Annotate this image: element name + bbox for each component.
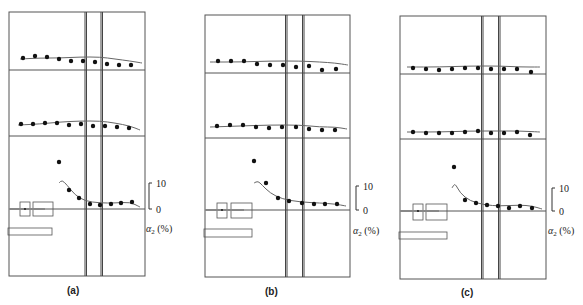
- scale-label-bottom: 0: [363, 205, 368, 216]
- data-point: [254, 125, 258, 129]
- data-point: [81, 59, 85, 63]
- data-point: [485, 203, 489, 207]
- data-point: [119, 201, 123, 205]
- middle-row: [18, 121, 140, 130]
- data-point: [528, 133, 532, 137]
- middle-row: [407, 129, 540, 137]
- data-point: [320, 128, 324, 132]
- data-point: [489, 67, 493, 71]
- scale-bar: 100α2 (%): [548, 183, 574, 238]
- fit-curve: [407, 66, 540, 67]
- data-point: [264, 181, 268, 185]
- data-point: [300, 201, 304, 205]
- data-point: [252, 159, 256, 163]
- data-point: [474, 201, 478, 205]
- data-point: [242, 59, 246, 63]
- data-point: [411, 130, 415, 134]
- data-point: [463, 130, 467, 134]
- data-point: [323, 202, 327, 206]
- data-point: [91, 124, 95, 128]
- data-point: [463, 198, 467, 202]
- data-point: [98, 203, 102, 207]
- data-point: [307, 127, 311, 131]
- panel-c: 100α2 (%)(c): [399, 16, 574, 298]
- panel-label: (a): [67, 285, 79, 296]
- data-point: [57, 57, 61, 61]
- data-point: [93, 60, 97, 64]
- data-point: [530, 206, 534, 210]
- data-point: [476, 129, 480, 133]
- axis-label-alpha2: α2 (%): [353, 225, 379, 238]
- panel-a: 100α2 (%)(a): [8, 12, 172, 296]
- axis-label-alpha2: α2 (%): [146, 223, 172, 236]
- component-center-dot: [24, 208, 26, 210]
- data-point: [450, 67, 454, 71]
- data-point: [276, 196, 280, 200]
- data-point: [103, 124, 107, 128]
- data-point: [411, 66, 415, 70]
- data-point: [43, 121, 47, 125]
- data-point: [31, 122, 35, 126]
- data-point: [268, 63, 272, 67]
- data-point: [335, 202, 339, 206]
- data-point: [502, 67, 506, 71]
- data-point: [496, 204, 500, 208]
- data-point: [463, 66, 467, 70]
- component-bar: [8, 228, 52, 235]
- data-point: [21, 56, 25, 60]
- data-point: [127, 126, 131, 130]
- data-point: [67, 188, 71, 192]
- data-point: [45, 55, 49, 59]
- bottom-row: [252, 159, 346, 206]
- data-point: [424, 131, 428, 135]
- component-bar: [399, 232, 447, 239]
- fit-curve: [18, 121, 140, 130]
- component-center-dot: [417, 210, 419, 212]
- bottom-row: [57, 160, 140, 207]
- data-point: [129, 63, 133, 67]
- data-point: [334, 67, 338, 71]
- data-point: [507, 206, 511, 210]
- data-point: [117, 63, 121, 67]
- data-point: [307, 64, 311, 68]
- data-point: [294, 65, 298, 69]
- data-point: [77, 196, 81, 200]
- data-point: [437, 68, 441, 72]
- data-point: [450, 131, 454, 135]
- scale-bar: 100α2 (%): [353, 181, 379, 238]
- panel-frame: [9, 12, 145, 276]
- data-point: [79, 122, 83, 126]
- figure: 100α2 (%)(a) 100α2 (%)(b) 100α2 (%)(c): [0, 0, 583, 305]
- data-point: [215, 124, 219, 128]
- top-row: [210, 59, 348, 72]
- scale-label-top: 10: [156, 178, 166, 189]
- data-point: [57, 160, 61, 164]
- data-point: [529, 70, 533, 74]
- component-schematic: [399, 204, 447, 239]
- component-schematic: [204, 203, 252, 237]
- scale-label-bottom: 0: [156, 204, 161, 215]
- panel-frame: [205, 15, 350, 277]
- data-point: [437, 131, 441, 135]
- data-point: [241, 123, 245, 127]
- data-point: [287, 199, 291, 203]
- scale-label-bottom: 0: [559, 206, 564, 217]
- data-point: [228, 123, 232, 127]
- data-point: [489, 131, 493, 135]
- data-point: [88, 202, 92, 206]
- panel-label: (c): [461, 287, 473, 298]
- data-point: [69, 59, 73, 63]
- data-point: [33, 54, 37, 58]
- scale-bracket: [356, 186, 359, 210]
- data-point: [320, 68, 324, 72]
- scale-label-top: 10: [363, 181, 373, 192]
- scale-bracket: [552, 188, 555, 211]
- data-point: [424, 67, 428, 71]
- data-point: [255, 62, 259, 66]
- data-point: [267, 126, 271, 130]
- data-point: [109, 202, 113, 206]
- data-point: [216, 59, 220, 63]
- panel-b: 100α2 (%)(b): [204, 15, 379, 297]
- data-point: [130, 200, 134, 204]
- component-bar: [204, 229, 252, 237]
